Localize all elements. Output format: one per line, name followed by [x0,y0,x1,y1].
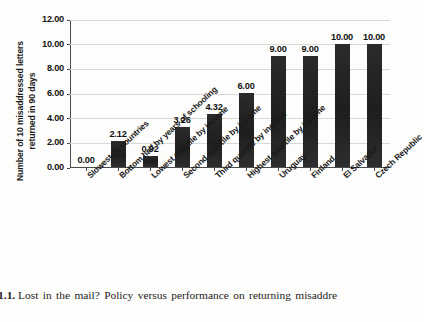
x-axis-label: Slowest 25 countries [85,173,92,180]
figure-caption: ure 1.1. Lost in the mail? Policy versus… [0,288,397,319]
y-tick-mark [67,118,70,119]
y-axis-tick-label: 12.00 [4,14,64,24]
bar-value-label: 9.00 [290,44,330,54]
bar [335,44,350,167]
y-axis-tick-label: 6.00 [4,88,64,98]
x-axis-label: Highest quartile by income [245,173,252,180]
gridline [70,20,390,21]
x-axis-label: Czech Republic [373,173,380,180]
y-axis-title: Number of 10 misaddressed letters return… [15,24,45,199]
x-axis-label: Finland [309,173,316,180]
y-tick-mark [67,69,70,70]
caption-second-line: elopes [0,304,397,320]
y-tick-mark [67,94,70,95]
y-axis-tick-label: 4.00 [4,113,64,123]
caption-body: Lost in the mail? Policy versus performa… [18,289,337,301]
x-axis-label: Bottom half by years of schooling [117,173,124,180]
y-tick-mark [67,168,70,169]
x-axis-label: Second quartile by income [181,173,188,180]
y-axis-tick-label: 2.00 [4,137,64,147]
bar-value-label: 6.00 [226,81,266,91]
x-axis-label: Lowest quartile by income [149,173,156,180]
x-axis-label: El Salvador [341,173,348,180]
y-axis-tick-label: 10.00 [4,39,64,49]
y-tick-mark [67,143,70,144]
y-axis-tick-label: 0.00 [4,162,64,172]
bar-chart-figure: Number of 10 misaddressed letters return… [0,0,397,286]
y-tick-mark [67,20,70,21]
y-tick-mark [67,44,70,45]
y-axis-title-line-1: Number of 10 misaddressed letters [15,24,27,199]
bar-value-label: 10.00 [354,32,394,42]
x-axis-label: Third quartile by income [213,173,220,180]
y-axis-tick-label: 8.00 [4,63,64,73]
x-axis-label: Uruguay [277,173,284,180]
y-axis-title-line-2: returned in 90 days [26,24,38,199]
caption-figure-number: ure 1.1. [0,289,15,301]
